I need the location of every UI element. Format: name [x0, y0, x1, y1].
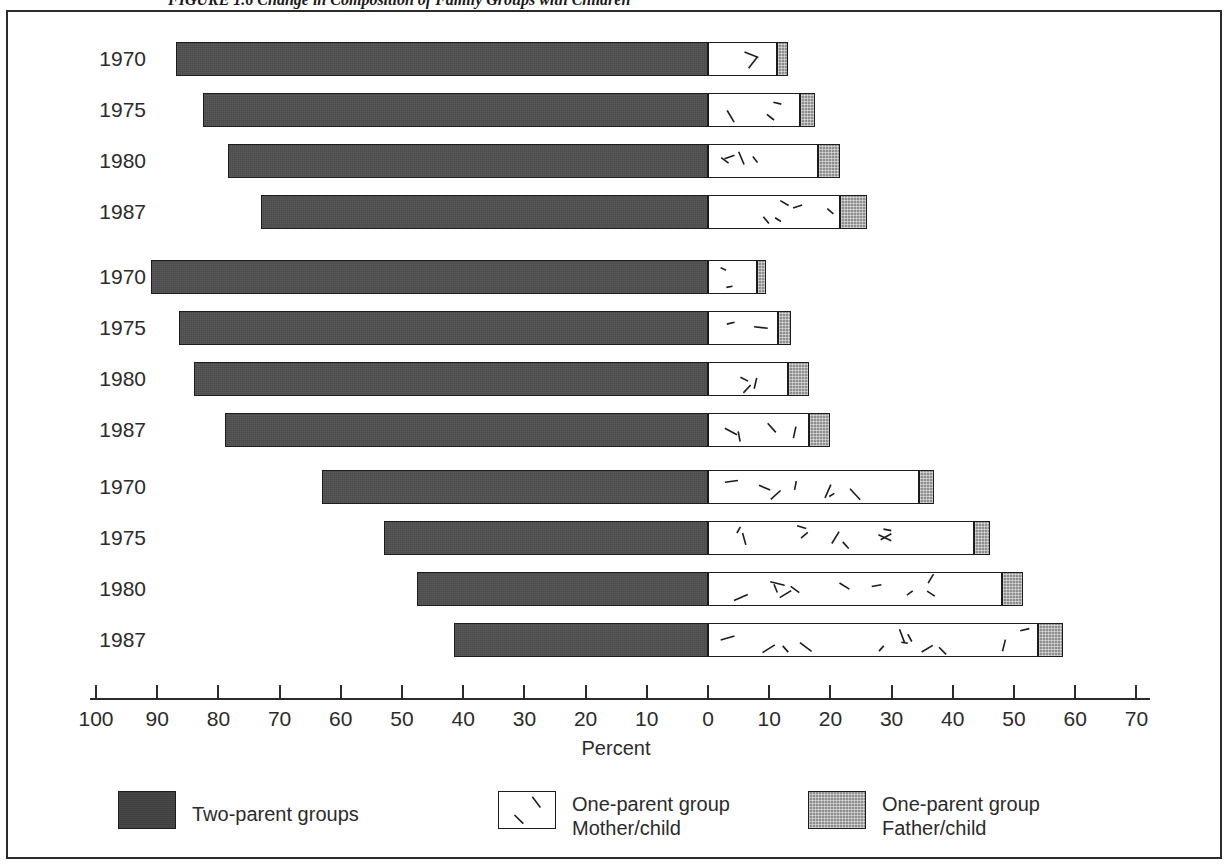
axis-tick — [646, 685, 648, 698]
axis-tick — [1013, 685, 1015, 698]
axis-tick-label: 50 — [991, 707, 1037, 731]
bar-segment-father-child — [777, 42, 787, 76]
axis-tick-label: 50 — [379, 707, 425, 731]
bar-segment-father-child — [818, 144, 839, 178]
bar-segment-mother-child — [708, 311, 778, 345]
bar-group: 1970197519801987 — [8, 42, 1224, 246]
axis-tick-label: 70 — [1113, 707, 1159, 731]
bar-segment-father-child — [778, 311, 790, 345]
bar-segment-father-child — [840, 195, 868, 229]
bar-segment-father-child — [757, 260, 766, 294]
year-label: 1987 — [56, 195, 146, 229]
bar-segment-mother-child — [708, 413, 809, 447]
bar-row: 1970 — [8, 42, 1224, 76]
axis-tick — [340, 685, 342, 698]
bar-row: 1975 — [8, 93, 1224, 127]
x-axis: 100908070605040302010010203040506070 — [8, 698, 1224, 699]
bar-row: 1980 — [8, 572, 1224, 606]
axis-tick-label: 20 — [807, 707, 853, 731]
axis-tick — [829, 685, 831, 698]
axis-tick — [1135, 685, 1137, 698]
plot-area: 1970197519801987197019751980198719701975… — [8, 12, 1224, 712]
axis-tick-label: 10 — [624, 707, 670, 731]
legend-label: Two-parent groups — [192, 802, 359, 826]
year-label: 1970 — [56, 42, 146, 76]
axis-tick-label: 40 — [440, 707, 486, 731]
bar-group: 1970197519801987 — [8, 470, 1224, 674]
bar-segment-two-parent — [261, 195, 708, 229]
bar-row: 1975 — [8, 311, 1224, 345]
figure-caption: FIGURE 1.6 Change in Composition of Fami… — [168, 0, 1068, 9]
bar-segment-two-parent — [384, 521, 708, 555]
chart-legend: Two-parent groupsOne-parent groupMother/… — [8, 787, 1224, 857]
bar-segment-father-child — [974, 521, 989, 555]
legend-swatch-mother-child — [498, 791, 556, 829]
figure-panel: 1970197519801987197019751980198719701975… — [6, 10, 1222, 859]
year-label: 1980 — [56, 144, 146, 178]
bar-segment-two-parent — [179, 311, 708, 345]
year-label: 1975 — [56, 521, 146, 555]
axis-tick-label: 20 — [563, 707, 609, 731]
axis-tick-label: 60 — [318, 707, 364, 731]
bar-segment-mother-child — [708, 521, 974, 555]
bar-group: 1970197519801987 — [8, 260, 1224, 464]
axis-tick — [156, 685, 158, 698]
bar-segment-mother-child — [708, 572, 1002, 606]
bar-segment-two-parent — [176, 42, 708, 76]
axis-tick-label: 60 — [1052, 707, 1098, 731]
axis-tick — [768, 685, 770, 698]
axis-tick — [279, 685, 281, 698]
year-label: 1980 — [56, 362, 146, 396]
axis-tick — [401, 685, 403, 698]
bar-segment-father-child — [800, 93, 815, 127]
axis-tick — [95, 685, 97, 698]
bar-segment-father-child — [919, 470, 934, 504]
axis-tick-label: 10 — [746, 707, 792, 731]
legend-swatch-father-child — [808, 791, 866, 829]
legend-swatch-two-parent — [118, 791, 176, 829]
bar-segment-two-parent — [322, 470, 708, 504]
bar-row: 1987 — [8, 413, 1224, 447]
bar-segment-father-child — [1002, 572, 1023, 606]
axis-tick — [1074, 685, 1076, 698]
axis-tick — [462, 685, 464, 698]
bar-segment-mother-child — [708, 195, 840, 229]
year-label: 1970 — [56, 470, 146, 504]
axis-tick — [891, 685, 893, 698]
bar-segment-two-parent — [225, 413, 708, 447]
bar-segment-two-parent — [151, 260, 708, 294]
bar-row: 1987 — [8, 623, 1224, 657]
legend-label: One-parent groupMother/child — [572, 792, 730, 840]
year-label: 1975 — [56, 93, 146, 127]
bar-row: 1980 — [8, 362, 1224, 396]
bar-row: 1987 — [8, 195, 1224, 229]
bar-segment-two-parent — [228, 144, 708, 178]
bar-segment-mother-child — [708, 93, 800, 127]
axis-tick — [952, 685, 954, 698]
axis-tick-label: 90 — [134, 707, 180, 731]
axis-tick-label: 100 — [73, 707, 119, 731]
year-label: 1970 — [56, 260, 146, 294]
year-label: 1975 — [56, 311, 146, 345]
bar-row: 1970 — [8, 470, 1224, 504]
axis-tick-label: 80 — [195, 707, 241, 731]
axis-tick — [585, 685, 587, 698]
bar-segment-two-parent — [194, 362, 708, 396]
bar-segment-two-parent — [454, 623, 708, 657]
bar-row: 1980 — [8, 144, 1224, 178]
axis-line — [90, 698, 1150, 700]
bar-segment-father-child — [1038, 623, 1062, 657]
axis-tick-label: 70 — [257, 707, 303, 731]
bar-row: 1970 — [8, 260, 1224, 294]
axis-tick — [707, 685, 709, 698]
bar-segment-father-child — [809, 413, 830, 447]
year-label: 1987 — [56, 413, 146, 447]
bar-segment-mother-child — [708, 470, 919, 504]
bar-segment-mother-child — [708, 260, 757, 294]
bar-row: 1975 — [8, 521, 1224, 555]
year-label: 1987 — [56, 623, 146, 657]
bar-segment-mother-child — [708, 362, 788, 396]
axis-tick-label: 30 — [869, 707, 915, 731]
bar-segment-two-parent — [417, 572, 708, 606]
axis-tick — [523, 685, 525, 698]
